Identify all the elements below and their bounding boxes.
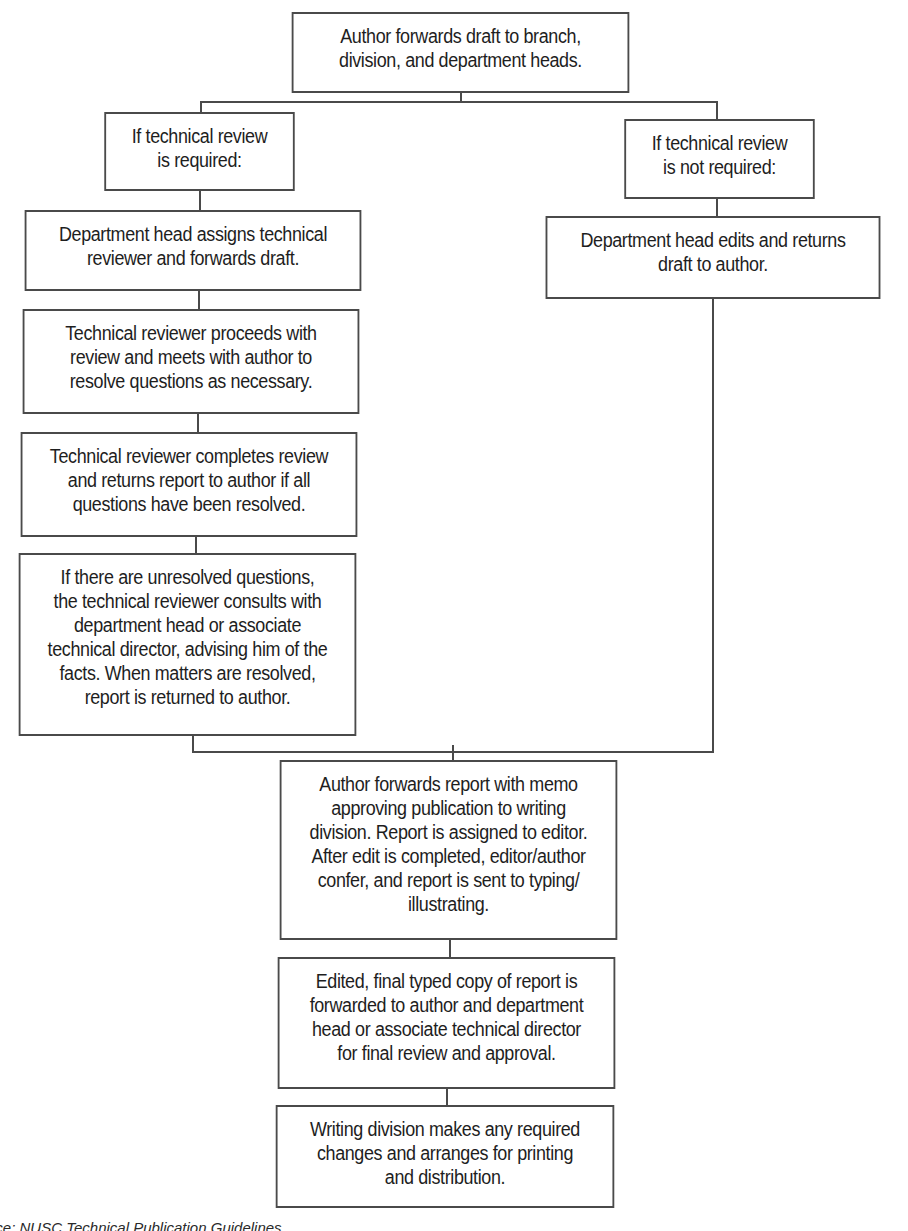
connector-required-to-assign — [199, 189, 201, 211]
node-review-required: If technical review is required: — [104, 112, 294, 191]
node-reviewer-completes: Technical reviewer completes review and … — [21, 432, 358, 537]
node-text: If technical review is required: — [132, 114, 268, 172]
connector-final-copy-to-writing — [446, 1087, 448, 1106]
connector-to-not-required — [716, 101, 718, 120]
node-text: Writing division makes any required chan… — [310, 1107, 580, 1189]
node-text: Edited, final typed copy of report is fo… — [310, 959, 584, 1065]
connector-merge-to-forward — [452, 745, 454, 761]
node-author-forwards-draft: Author forwards draft to branch, divisio… — [292, 12, 630, 93]
connector-proceeds-to-completes — [197, 412, 199, 433]
connector-assign-to-proceeds — [198, 289, 200, 310]
source-caption: urce: NUSC Technical Publication Guideli… — [0, 1219, 282, 1231]
node-assign-reviewer: Department head assigns technical review… — [25, 210, 362, 291]
node-text: Technical reviewer proceeds with review … — [65, 311, 316, 393]
node-text: Author forwards report with memo approvi… — [310, 762, 588, 916]
connector-branch-split — [200, 101, 718, 103]
node-text: If there are unresolved questions, the t… — [48, 555, 328, 709]
node-writing-division-printing: Writing division makes any required chan… — [276, 1105, 615, 1208]
node-text: Author forwards draft to branch, divisio… — [339, 14, 582, 72]
node-head-edits-returns: Department head edits and returns draft … — [546, 216, 881, 299]
node-author-forwards-report: Author forwards report with memo approvi… — [280, 760, 618, 940]
connector-completes-to-unresolved — [195, 535, 197, 554]
connector-forward-to-final-copy — [449, 938, 451, 958]
node-final-typed-copy: Edited, final typed copy of report is fo… — [278, 957, 616, 1089]
node-review-not-required: If technical review is not required: — [624, 119, 814, 199]
connector-not-required-to-edits — [716, 197, 718, 217]
node-text: Department head edits and returns draft … — [580, 218, 845, 276]
node-unresolved-questions: If there are unresolved questions, the t… — [19, 553, 357, 736]
node-text: Technical reviewer completes review and … — [50, 434, 328, 516]
node-text: Department head assigns technical review… — [59, 212, 327, 270]
node-text: If technical review is not required: — [652, 121, 788, 179]
node-reviewer-proceeds: Technical reviewer proceeds with review … — [23, 309, 360, 414]
connector-edits-down — [712, 297, 714, 753]
